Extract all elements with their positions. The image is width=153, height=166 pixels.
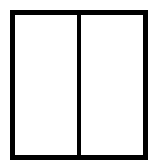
two-pane-frame: [10, 10, 148, 160]
right-pane: [81, 15, 143, 155]
left-pane: [15, 15, 77, 155]
